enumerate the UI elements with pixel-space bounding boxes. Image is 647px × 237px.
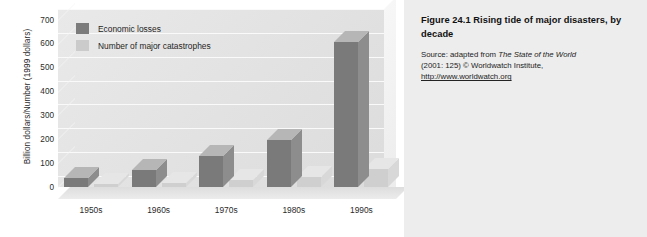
gridline: [58, 9, 384, 10]
bar-front-face: [229, 180, 253, 187]
legend-color-swatch: [76, 23, 89, 34]
chart-panel: Billion dollars/Number (1999 dollars) 01…: [0, 0, 404, 237]
source-prefix: Source: adapted from: [421, 50, 498, 59]
legend-item[interactable]: Economic losses: [76, 20, 211, 37]
y-axis-tick-label: 400: [26, 87, 54, 96]
bar-front-face: [334, 42, 358, 187]
source-citation: (2001: 125) © Worldwatch Institute,: [421, 61, 543, 70]
x-axis-tick-label: 1980s: [282, 205, 305, 215]
x-axis-tick-label: 1950s: [80, 205, 103, 215]
figure-container: Billion dollars/Number (1999 dollars) 01…: [0, 0, 647, 237]
bar-1980s-major-catastrophes[interactable]: [297, 177, 321, 187]
source-publication-title: The State of the World: [498, 50, 576, 59]
bar-front-face: [297, 177, 321, 187]
bar-front-face: [94, 184, 118, 187]
chart-legend: Economic lossesNumber of major catastrop…: [76, 20, 211, 54]
x-axis-tick-label: 1990s: [350, 205, 373, 215]
legend-item-label: Economic losses: [98, 24, 161, 34]
bar-front-face: [64, 178, 88, 187]
figure-caption-title: Figure 24.1 Rising tide of major disaste…: [421, 14, 631, 41]
bar-1970s-economic-losses[interactable]: [199, 156, 223, 187]
x-axis-tick-label: 1960s: [147, 205, 170, 215]
y-axis-tick-label: 0: [26, 183, 54, 192]
source-url-link[interactable]: http://www.worldwatch.org: [421, 72, 512, 81]
bar-front-face: [162, 183, 186, 187]
y-axis-tick-label: 300: [26, 111, 54, 120]
y-axis-tick-label: 700: [26, 16, 54, 25]
caption-panel: Figure 24.1 Rising tide of major disaste…: [404, 0, 647, 237]
legend-item-label: Number of major catastrophes: [98, 41, 211, 51]
bar-1980s-economic-losses[interactable]: [267, 140, 291, 187]
plot-floor: [58, 187, 408, 199]
y-axis-tick-label: 100: [26, 159, 54, 168]
y-axis-tick-label: 200: [26, 135, 54, 144]
bar-1960s-economic-losses[interactable]: [132, 170, 156, 187]
bar-front-face: [199, 156, 223, 187]
legend-item[interactable]: Number of major catastrophes: [76, 37, 211, 54]
bar-1990s-economic-losses[interactable]: [334, 42, 358, 187]
bar-1950s-major-catastrophes[interactable]: [94, 184, 118, 187]
bar-front-face: [132, 170, 156, 187]
bar-1950s-economic-losses[interactable]: [64, 178, 88, 187]
bar-side-face: [358, 31, 369, 187]
y-axis-tick-label: 500: [26, 63, 54, 72]
y-axis-tick-labels: 0100200300400500600700: [26, 9, 54, 199]
bar-1960s-major-catastrophes[interactable]: [162, 183, 186, 187]
x-axis-tick-label: 1970s: [215, 205, 238, 215]
figure-source-note: Source: adapted from The State of the Wo…: [421, 49, 631, 83]
bar-1970s-major-catastrophes[interactable]: [229, 180, 253, 187]
x-axis-tick-labels: 1950s1960s1970s1980s1990s: [58, 205, 396, 221]
bar-front-face: [267, 140, 291, 187]
legend-color-swatch: [76, 40, 89, 51]
y-axis-tick-label: 600: [26, 39, 54, 48]
